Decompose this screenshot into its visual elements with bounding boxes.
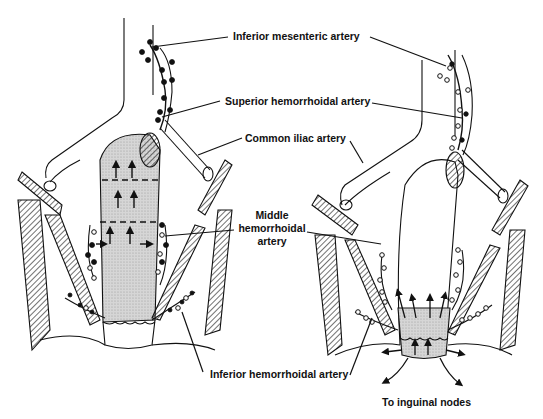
left-panel [18,18,232,350]
label-middle-line3: artery [232,235,312,248]
right-lymph-nodes-filled [450,62,468,142]
label-common-iliac-artery: Common iliac artery [245,132,346,145]
label-inferior-mesenteric-artery: Inferior mesenteric artery [233,30,360,43]
label-middle-hemorrhoidal-artery: Middle hemorrhoidal artery [232,209,312,248]
label-middle-line1: Middle [232,209,312,222]
label-middle-line2: hemorrhoidal [232,222,312,235]
label-superior-hemorrhoidal-artery: Superior hemorrhoidal artery [225,95,370,108]
label-inferior-hemorrhoidal-artery: Inferior hemorrhoidal artery [210,368,348,381]
label-to-inguinal-nodes: To inguinal nodes [382,396,471,409]
